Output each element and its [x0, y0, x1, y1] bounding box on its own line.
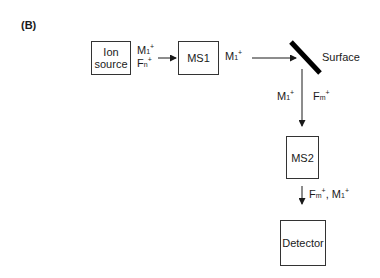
ms2-label: MS2 — [291, 152, 314, 164]
ms1-output-label: M1+ — [225, 50, 242, 62]
ms2-output-label: Fm+, M1+ — [309, 188, 349, 200]
ms2-box: MS2 — [286, 136, 319, 179]
surface-label: Surface — [322, 51, 360, 63]
ms1-label: MS1 — [187, 52, 210, 64]
surface-output-label-m1: M1+ — [277, 90, 294, 102]
detector-box: Detector — [280, 220, 326, 266]
detector-label: Detector — [282, 237, 324, 249]
ion-source-box: Ion source — [91, 41, 131, 75]
ion-source-label-line2: source — [94, 58, 127, 70]
surface-output-label-fm: Fm+ — [313, 90, 330, 102]
ms1-box: MS1 — [178, 41, 219, 75]
ion-source-output-label-fn: Fn+ — [137, 57, 152, 69]
ion-source-label-line1: Ion — [103, 46, 118, 58]
ion-source-output-label-m1: M1+ — [137, 44, 154, 56]
